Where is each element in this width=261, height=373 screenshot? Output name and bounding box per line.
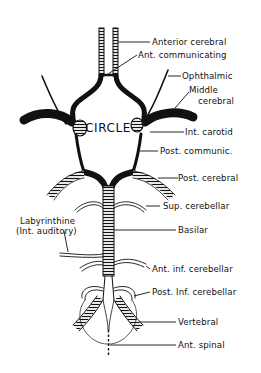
- label-ophthalmic: Ophthalmic: [182, 71, 233, 81]
- label-post-communic: Post. communic.: [160, 146, 232, 156]
- label-middle-cerebral-line2: cerebral: [198, 96, 234, 106]
- label-middle-cerebral-line1: Middle: [189, 85, 218, 95]
- label-post-inf-cerebellar: Post. Inf. cerebellar: [152, 287, 237, 297]
- posterior-inferior-cerebellar-arteries: [82, 286, 135, 300]
- center-label: CIRCLE: [85, 121, 131, 135]
- basilar-artery: [103, 186, 114, 276]
- circle-of-willis-diagram: CIRCLE Anterior cerebral Ant. communicat…: [0, 0, 261, 373]
- vertebral-arteries: [73, 276, 143, 344]
- label-labyrinthine-line1: Labyrinthine: [20, 216, 75, 226]
- label-labyrinthine-line2: (Int. auditory): [16, 226, 77, 236]
- label-basilar: Basilar: [178, 225, 208, 235]
- label-ant-communicating: Ant. communicating: [138, 50, 227, 60]
- label-ant-inf-cerebellar: Ant. inf. cerebellar: [152, 264, 233, 274]
- label-vertebral: Vertebral: [178, 317, 218, 327]
- label-anterior-cerebral: Anterior cerebral: [152, 37, 226, 47]
- labyrinthine-arteries: [60, 253, 103, 257]
- label-sup-cerebellar: Sup. cerebellar: [163, 201, 230, 211]
- label-post-cerebral: Post. cerebral: [178, 173, 238, 183]
- anterior-spinal-artery: [103, 300, 114, 356]
- label-ant-spinal: Ant. spinal: [178, 340, 225, 350]
- label-int-carotid: Int. carotid: [185, 127, 233, 137]
